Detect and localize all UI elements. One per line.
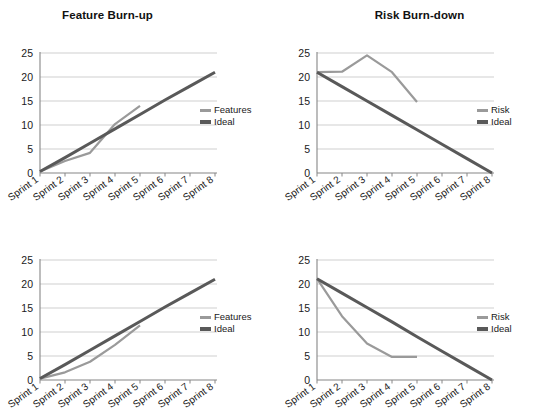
legend-label: Ideal	[491, 323, 512, 335]
y-axis-tick-label: 5	[304, 143, 310, 155]
y-axis-tick-label: 25	[298, 47, 310, 59]
y-axis-tick-label: 5	[27, 350, 33, 362]
y-axis-tick-label: 25	[298, 254, 310, 266]
chart-grid: Feature Burn-up 0510152025Sprint 1Sprint…	[0, 0, 554, 414]
legend-label: Features	[214, 311, 252, 323]
legend-feature-burn-up-bottom: Features Ideal	[200, 311, 252, 335]
series-line-ideal	[40, 72, 215, 171]
legend-label: Risk	[491, 104, 509, 116]
y-axis-tick-label: 5	[27, 143, 33, 155]
legend-item: Ideal	[477, 116, 512, 128]
plot-risk-burn-down-bottom: 0510152025Sprint 1Sprint 2Sprint 3Sprint…	[277, 207, 554, 414]
y-axis-tick-label: 10	[21, 326, 33, 338]
legend-risk-burn-down-top: Risk Ideal	[477, 104, 512, 128]
series-line-risk	[317, 279, 417, 357]
legend-item: Risk	[477, 311, 512, 323]
legend-label: Ideal	[214, 116, 235, 128]
legend-swatch-icon	[200, 316, 211, 319]
legend-item: Ideal	[200, 116, 252, 128]
chart-panel-risk-burn-down-bottom: 0510152025Sprint 1Sprint 2Sprint 3Sprint…	[277, 207, 554, 414]
legend-risk-burn-down-bottom: Risk Ideal	[477, 311, 512, 335]
legend-swatch-icon	[200, 109, 211, 112]
legend-swatch-icon	[477, 109, 488, 112]
legend-item: Ideal	[200, 323, 252, 335]
legend-swatch-icon	[477, 327, 488, 331]
legend-swatch-icon	[200, 327, 211, 331]
legend-label: Risk	[491, 311, 509, 323]
legend-item: Ideal	[477, 323, 512, 335]
y-axis-tick-label: 20	[298, 278, 310, 290]
y-axis-tick-label: 20	[298, 71, 310, 83]
y-axis-tick-label: 15	[21, 95, 33, 107]
plot-risk-burn-down-top: 0510152025Sprint 1Sprint 2Sprint 3Sprint…	[277, 0, 554, 207]
legend-swatch-icon	[200, 120, 211, 124]
legend-label: Features	[214, 104, 252, 116]
y-axis-tick-label: 10	[298, 119, 310, 131]
series-line-ideal	[317, 279, 492, 380]
legend-item: Risk	[477, 104, 512, 116]
legend-item: Features	[200, 104, 252, 116]
y-axis-tick-label: 15	[21, 302, 33, 314]
y-axis-tick-label: 25	[21, 47, 33, 59]
series-line-ideal	[40, 279, 215, 378]
chart-panel-risk-burn-down-top: Risk Burn-down 0510152025Sprint 1Sprint …	[277, 0, 554, 207]
y-axis-tick-label: 15	[298, 302, 310, 314]
y-axis-tick-label: 5	[304, 350, 310, 362]
series-line-risk	[317, 55, 417, 102]
y-axis-tick-label: 20	[21, 278, 33, 290]
legend-label: Ideal	[491, 116, 512, 128]
chart-panel-feature-burn-up-bottom: 0510152025Sprint 1Sprint 2Sprint 3Sprint…	[0, 207, 277, 414]
legend-swatch-icon	[477, 316, 488, 319]
y-axis-tick-label: 10	[298, 326, 310, 338]
legend-feature-burn-up-top: Features Ideal	[200, 104, 252, 128]
chart-panel-feature-burn-up-top: Feature Burn-up 0510152025Sprint 1Sprint…	[0, 0, 277, 207]
legend-item: Features	[200, 311, 252, 323]
y-axis-tick-label: 20	[21, 71, 33, 83]
legend-swatch-icon	[477, 120, 488, 124]
legend-label: Ideal	[214, 323, 235, 335]
y-axis-tick-label: 15	[298, 95, 310, 107]
y-axis-tick-label: 10	[21, 119, 33, 131]
y-axis-tick-label: 25	[21, 254, 33, 266]
